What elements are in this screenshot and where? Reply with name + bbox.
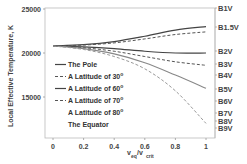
spectral-type-label: B3V	[218, 60, 233, 69]
y-tick-label: 20000	[22, 50, 42, 57]
y-axis-label: Local Effective Temperature, K	[7, 25, 15, 127]
svg-text:crit: crit	[146, 153, 154, 159]
legend-item: The Pole	[68, 61, 97, 68]
spectral-type-label: B1.5V	[218, 23, 239, 32]
temperature-chart: 150002000025000 00.20.40.60.81 B1VB1.5VB…	[0, 0, 247, 164]
legend-item: The Equator	[68, 121, 109, 129]
x-tick-label: 0.2	[79, 143, 89, 150]
spectral-type-label: B6V	[218, 97, 233, 106]
svg-text:eq: eq	[131, 153, 137, 159]
right-spectral-labels: B1VB1.5VB2VB3VB4VB5VB6VB7VB8VB9V	[215, 4, 239, 133]
spectral-type-label: B5V	[218, 85, 233, 94]
svg-text:/v: /v	[137, 149, 143, 156]
legend: The PoleA Latitude of 30oA Latitude of 6…	[55, 61, 123, 129]
x-tick-label: 0.8	[171, 143, 181, 150]
y-tick-label: 15000	[22, 94, 42, 101]
spectral-type-label: B2V	[218, 47, 233, 56]
curve-0	[53, 27, 206, 46]
spectral-type-label: B9V	[218, 124, 233, 133]
y-ticks: 150002000025000	[22, 6, 45, 101]
legend-item: A Latitude of 30o	[68, 71, 123, 80]
spectral-type-label: B4V	[218, 71, 233, 80]
x-tick-label: 0	[51, 143, 55, 150]
x-axis-label: v eq /v crit	[127, 149, 154, 159]
legend-item: A Latitude of 80o	[68, 107, 123, 116]
x-tick-label: 1	[204, 143, 208, 150]
legend-item: A Latitude of 70o	[68, 95, 123, 104]
spectral-type-label: B1V	[218, 4, 233, 13]
y-tick-label: 25000	[22, 6, 42, 13]
x-tick-label: 0.4	[109, 143, 119, 150]
legend-item: A Latitude of 60o	[68, 83, 123, 92]
